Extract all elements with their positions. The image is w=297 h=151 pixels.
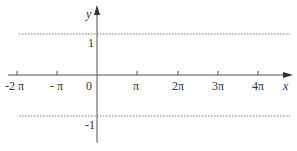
x-tick-label: 2π <box>172 80 184 92</box>
origin-label: 0 <box>86 80 92 92</box>
x-axis-label: x <box>283 80 288 92</box>
x-tick-label: - π <box>50 80 63 92</box>
x-tick-label: 4π <box>252 80 264 92</box>
y-tick-label: 1 <box>88 37 94 49</box>
coordinate-plane <box>0 0 297 151</box>
x-axis-arrow-icon <box>283 72 293 78</box>
y-axis-label: y <box>86 8 91 20</box>
x-tick-label: π <box>133 80 139 92</box>
x-tick-label: 3π <box>212 80 224 92</box>
y-axis-arrow-icon <box>94 5 100 15</box>
y-tick-label: -1 <box>85 119 95 131</box>
x-tick-label: -2 π <box>5 80 24 92</box>
